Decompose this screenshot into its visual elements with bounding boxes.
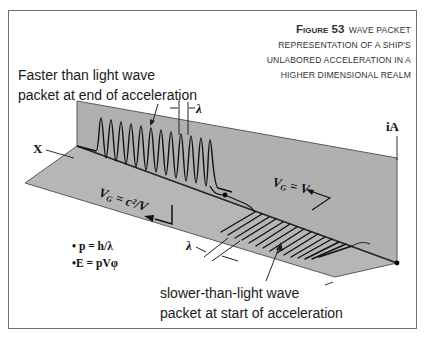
formulas: • p = h/λ •E = pVφ: [72, 238, 118, 272]
faster-packet-line-1: Faster than light wave: [18, 65, 248, 85]
lambda-bottom-label: λ: [185, 238, 192, 253]
ia-axis-label: iA: [386, 119, 400, 134]
lambda-bottom-arrow-right: [222, 256, 238, 261]
formula-momentum: • p = h/λ: [72, 238, 118, 255]
slower-packet-line-2: packet at start of acceleration: [160, 303, 420, 323]
slower-packet-line-1: slower-than-light wave: [160, 283, 420, 303]
caption-line-2: representation of a Ship's: [211, 38, 411, 53]
ia-axis-point: [395, 261, 400, 266]
faster-packet-line-2: packet at end of acceleration: [18, 85, 248, 105]
caption-line-1: Wave Packet: [349, 25, 411, 35]
faster-packet-annotation: Faster than light wave packet at end of …: [18, 65, 248, 105]
lambda-bottom-arrow-left: [196, 247, 206, 252]
x-axis-label: X: [33, 141, 43, 156]
slower-packet-annotation: slower-than-light wave packet at start o…: [160, 283, 420, 323]
figure-number: Figure 53: [296, 23, 344, 35]
formula-energy: •E = pVφ: [72, 255, 118, 272]
